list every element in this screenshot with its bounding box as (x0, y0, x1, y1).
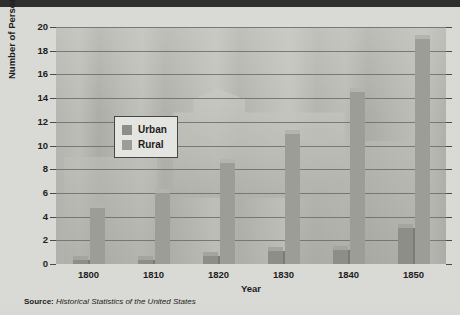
bar-urban-1810 (138, 260, 153, 264)
y-axis-tick-label: 10 (22, 140, 48, 151)
gridline (56, 27, 446, 28)
bar-rural-1850 (415, 39, 430, 264)
bar-face (415, 39, 430, 264)
bar-rural-1840 (350, 92, 365, 264)
y-axis-tick-label: 14 (22, 92, 48, 103)
y-axis-right-tick (446, 74, 452, 75)
y-axis-tick-label: 18 (22, 45, 48, 56)
x-axis-tick-label: 1800 (64, 269, 114, 280)
x-axis-title: Year (56, 283, 446, 294)
x-axis-tick-label: 1830 (259, 269, 309, 280)
y-axis-tick-label: 6 (22, 187, 48, 198)
y-axis-right-tick (446, 193, 452, 194)
bar-face (220, 163, 235, 264)
bar-side (105, 208, 110, 264)
bar-top (350, 88, 365, 92)
figure-area: Number of Persons (in millions) 02468101… (22, 21, 446, 289)
bar-face (350, 92, 365, 264)
y-axis-right-tick (446, 217, 452, 218)
y-axis-right-tick (446, 98, 452, 99)
bar-face (155, 193, 170, 264)
gridline (56, 217, 446, 218)
y-axis-right-tick (446, 122, 452, 123)
bar-face (138, 260, 153, 264)
x-axis-tick-label: 1820 (194, 269, 244, 280)
y-axis-tick-label: 2 (22, 234, 48, 245)
y-axis-tick-label: 0 (22, 258, 48, 269)
bar-face (398, 228, 413, 264)
bar-urban-1850 (398, 228, 413, 264)
gridline (56, 193, 446, 194)
y-axis-right-tick (446, 264, 452, 265)
y-axis-right-tick (446, 27, 452, 28)
legend-item-rural: Rural (122, 137, 167, 152)
bar-urban-1830 (268, 251, 283, 264)
bar-rural-1820 (220, 163, 235, 264)
x-axis-tick-label: 1810 (129, 269, 179, 280)
gridline (56, 240, 446, 241)
legend-swatch-urban (122, 125, 132, 135)
bar-top (203, 252, 218, 256)
chart-figure: Number of Persons (in millions) 02468101… (0, 0, 460, 315)
y-axis-tick-label: 4 (22, 211, 48, 222)
y-axis-right-tick (446, 51, 452, 52)
legend-swatch-rural (122, 140, 132, 150)
bar-top (73, 256, 88, 260)
top-dark-band (0, 0, 460, 7)
bar-side (300, 134, 305, 264)
y-axis-tick (50, 264, 56, 265)
y-axis-right-tick (446, 146, 452, 147)
y-axis-tick-label: 8 (22, 163, 48, 174)
bar-top (268, 247, 283, 251)
bar-top (398, 224, 413, 228)
bar-top (285, 130, 300, 134)
bar-side (365, 92, 370, 264)
source-prefix: Source: (24, 297, 54, 306)
background-photograph-detail (64, 157, 158, 264)
bar-top (155, 189, 170, 193)
bar-side (430, 39, 435, 264)
y-axis-right-tick (446, 240, 452, 241)
gridline (56, 51, 446, 52)
bar-side (235, 163, 240, 264)
y-axis-tick-label: 12 (22, 116, 48, 127)
bar-top (415, 35, 430, 39)
legend-item-urban: Urban (122, 122, 167, 137)
chart-legend: Urban Rural (114, 116, 178, 158)
bar-face (73, 260, 88, 264)
bar-side (170, 193, 175, 264)
bar-urban-1840 (333, 250, 348, 264)
bar-face (285, 134, 300, 264)
bar-top (333, 246, 348, 250)
y-axis-tick-label: 16 (22, 68, 48, 79)
bar-top (90, 204, 105, 208)
x-axis-tick-label: 1850 (389, 269, 439, 280)
bar-urban-1800 (73, 260, 88, 264)
bar-urban-1820 (203, 256, 218, 264)
source-text: Historical Statistics of the United Stat… (56, 297, 196, 306)
bar-rural-1830 (285, 134, 300, 264)
bar-rural-1800 (90, 208, 105, 264)
bar-face (203, 256, 218, 264)
y-axis-tick-label: 20 (22, 21, 48, 32)
bar-top (220, 159, 235, 163)
bar-top (138, 256, 153, 260)
bar-face (90, 208, 105, 264)
legend-label-urban: Urban (138, 124, 167, 135)
source-note: Source: Historical Statistics of the Uni… (24, 297, 196, 306)
bar-face (333, 250, 348, 264)
chart-plate: Number of Persons (in millions) 02468101… (0, 9, 460, 306)
gridline (56, 98, 446, 99)
y-axis-title: Number of Persons (in millions) (6, 0, 20, 79)
x-axis-tick-label: 1840 (324, 269, 374, 280)
bar-face (268, 251, 283, 264)
y-axis-right-tick (446, 169, 452, 170)
gridline (56, 74, 446, 75)
legend-label-rural: Rural (138, 139, 164, 150)
gridline (56, 169, 446, 170)
bar-rural-1810 (155, 193, 170, 264)
